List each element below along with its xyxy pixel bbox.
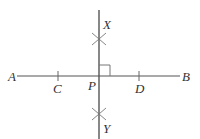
label-p: P: [87, 78, 96, 93]
label-a: A: [7, 69, 16, 84]
label-b: B: [182, 69, 190, 84]
right-angle-marker: [99, 65, 110, 76]
label-y: Y: [103, 121, 112, 136]
diagram-canvas: A B C D P X Y: [0, 0, 200, 139]
perpendicular-construction-diagram: A B C D P X Y: [0, 0, 200, 139]
label-c: C: [53, 81, 62, 96]
label-d: D: [134, 81, 145, 96]
label-x: X: [102, 17, 112, 32]
